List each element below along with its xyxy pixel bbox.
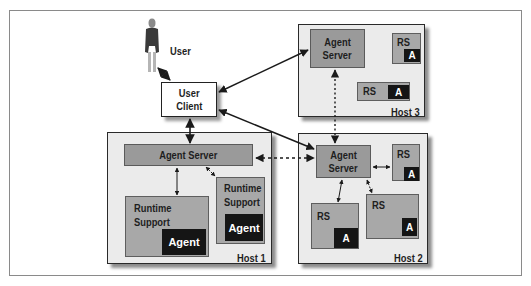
host1-runtime-support-a: Runtime Support Agent	[125, 196, 209, 257]
rs-b-line2: Support	[224, 196, 260, 209]
agent-label: A	[408, 169, 415, 180]
person-icon	[143, 18, 161, 74]
rs-label: RS	[363, 85, 376, 98]
agent-box: A	[388, 85, 409, 99]
agent-box: A	[404, 167, 419, 181]
host2-label: Host 2	[375, 248, 423, 266]
host3-rs-bottom: RS A	[357, 82, 410, 101]
host3-rs-top: RS A	[392, 33, 421, 64]
host3-label: Host 3	[372, 102, 420, 120]
user-client-line2: Client	[176, 100, 202, 113]
agent-label: A	[406, 222, 413, 233]
agent-label: Agent	[168, 236, 199, 248]
host2-agent-server-line2: Server	[329, 162, 358, 175]
rs-label: RS	[397, 148, 410, 161]
host2-agent-server: Agent Server	[316, 145, 371, 178]
host2-rs-top-right: RS A	[392, 144, 420, 181]
rs-a-line2: Support	[134, 216, 170, 229]
agent-box: Agent	[225, 214, 263, 241]
rs-b-line1: Runtime	[224, 182, 261, 195]
agent-label: A	[342, 233, 349, 244]
rs-label: RS	[397, 36, 410, 49]
agent-box: A	[404, 49, 420, 62]
agent-label: A	[408, 50, 415, 61]
host1-runtime-support-b: Runtime Support Agent	[216, 177, 265, 244]
host2-rs-bottom-right: RS A	[366, 194, 419, 239]
rs-label: RS	[317, 210, 330, 223]
host1-label: Host 1	[218, 248, 266, 266]
agent-label: A	[395, 87, 402, 98]
host1-agent-server-label: Agent Server	[159, 149, 217, 162]
user-client-box: User Client	[161, 82, 217, 117]
user-client-line1: User	[179, 87, 200, 100]
host3-agent-server-line1: Agent	[324, 36, 350, 49]
agent-label: Agent	[228, 222, 259, 234]
agent-box: Agent	[162, 229, 206, 255]
agent-box: A	[402, 218, 417, 236]
rs-label: RS	[372, 199, 385, 212]
agent-box: A	[334, 228, 358, 248]
host3-agent-server-line2: Server	[323, 49, 352, 62]
rs-a-line1: Runtime	[134, 202, 171, 215]
host2-agent-server-line1: Agent	[330, 149, 356, 162]
host3-agent-server: Agent Server	[310, 29, 365, 68]
user-label: User	[170, 45, 191, 58]
host1-agent-server: Agent Server	[124, 144, 253, 166]
host2-rs-bottom-left: RS A	[311, 203, 359, 249]
